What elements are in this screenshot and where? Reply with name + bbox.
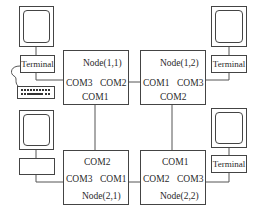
port-com2: COM2: [143, 174, 169, 184]
port-com3: COM3: [66, 78, 92, 88]
node-1-1: Node(1,1) COM3 COM2 COM1: [63, 50, 129, 105]
port-com2: COM2: [100, 78, 126, 88]
port-com3: COM3: [177, 174, 203, 184]
terminal-1-1: Terminal: [20, 55, 55, 73]
port-com2: COM2: [84, 157, 110, 167]
port-com3: COM3: [66, 174, 92, 184]
port-com1: COM1: [162, 157, 188, 167]
port-com3: COM3: [177, 78, 203, 88]
node-1-2: Node(1,2) COM1 COM3 COM2: [140, 50, 206, 105]
monitor-icon: [211, 6, 247, 47]
monitor-icon: [211, 108, 247, 148]
monitor-icon: [19, 6, 54, 47]
port-com1: COM1: [82, 92, 108, 102]
terminal-1-2: Terminal: [211, 55, 247, 73]
port-com1: COM1: [143, 78, 169, 88]
node-title: Node(1,1): [83, 58, 122, 68]
port-com2: COM2: [160, 92, 186, 102]
node-title: Node(1,2): [160, 58, 199, 68]
terminal-2-2: Terminal: [211, 155, 247, 173]
node-2-2: COM1 COM2 COM3 Node(2,2): [140, 150, 206, 205]
port-com1: COM1: [100, 174, 126, 184]
terminal-2-1: [19, 158, 55, 175]
monitor-icon: [19, 110, 54, 150]
node-title: Node(2,2): [160, 191, 199, 201]
node-title: Node(2,1): [82, 191, 121, 201]
keyboard-icon: [17, 86, 55, 99]
node-2-1: COM2 COM3 COM1 Node(2,1): [63, 150, 129, 205]
